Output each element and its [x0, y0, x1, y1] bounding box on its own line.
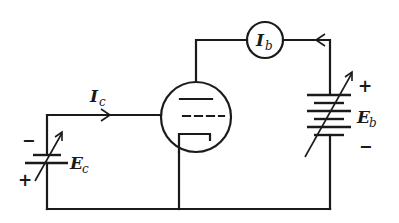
triode-circuit-diagram: I b I c − + E c + E [0, 0, 399, 223]
ic-label-sub: c [99, 95, 106, 109]
eb-plus-sign: + [358, 76, 372, 96]
variable-arrow-icon [35, 133, 62, 181]
ammeter-ib: I b [247, 22, 283, 58]
plate-circuit-wires [196, 40, 330, 209]
ec-minus-sign: − [22, 131, 35, 150]
grid-battery-ec: − + E c [18, 131, 89, 190]
ic-label-main: I [89, 86, 99, 106]
ec-plus-sign: + [18, 170, 32, 190]
ib-label-sub: b [265, 39, 273, 53]
eb-minus-sign: − [359, 137, 372, 156]
ib-label-main: I [255, 30, 265, 50]
grid-circuit-wires [47, 115, 330, 209]
triode-tube [161, 82, 231, 152]
eb-label-sub: b [369, 116, 377, 130]
variable-arrow-icon [305, 73, 352, 157]
plate-battery-eb: + E b − [305, 72, 377, 157]
ec-label-sub: c [82, 162, 89, 176]
